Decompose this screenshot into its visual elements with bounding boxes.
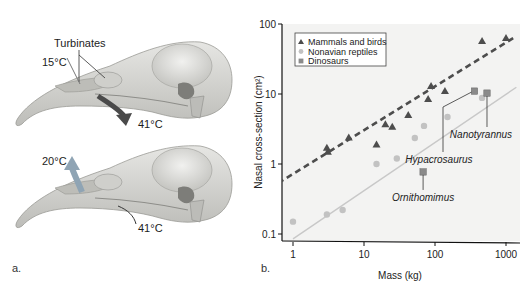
callout-nanotyrannus: Nanotyrannus [450,129,512,140]
orbit-icon [152,148,212,192]
legend-circle-icon [299,49,304,54]
label-exhale-temp: 20°C [42,155,67,167]
circle-marker-icon [324,211,330,217]
label-inhale-temp: 15°C [42,56,67,68]
y-axis-label: Nasal cross-section (cm²) [253,75,264,188]
legend-label: Mammals and birds [308,37,387,47]
y-tick-label: 0.1 [262,229,276,240]
skull-illustrations [0,0,235,299]
square-marker-icon [484,90,490,96]
turbinate-icon [94,72,122,88]
legend-square-icon [299,59,304,64]
y-tick-label: 100 [259,19,276,30]
square-marker-icon [420,169,426,175]
callout-hypacrosaurus: Hypacrosaurus [405,154,472,165]
callout-ornithomimus: Ornithomimus [392,192,454,203]
label-bottom-body-temp: 41°C [138,222,163,234]
y-tick-label: 1 [270,159,276,170]
panel-a-skulls: Turbinates 15°C 41°C 20°C 41°C a. [0,0,235,299]
orbit-icon [152,44,212,88]
legend-label: Dinosaurs [308,56,349,66]
x-tick-label: 1000 [495,249,518,260]
square-marker-icon [471,88,477,94]
chart-legend: Mammals and birdsNonavian reptilesDinosa… [295,33,387,66]
circle-marker-icon [412,135,418,141]
scatter-plot: 0.11101001101001000Mass (kg)Nasal cross-… [235,0,532,299]
panel-a-letter: a. [12,262,21,274]
circle-marker-icon [444,114,450,120]
x-tick-label: 100 [427,249,444,260]
circle-marker-icon [394,155,400,161]
circle-marker-icon [290,218,296,224]
x-tick-label: 10 [358,249,370,260]
label-top-body-temp: 41°C [138,118,163,130]
legend-label: Nonavian reptiles [308,47,378,57]
turbinate-icon [94,174,122,190]
top-skull [16,42,232,126]
circle-marker-icon [339,207,345,213]
x-tick-label: 1 [290,249,296,260]
circle-marker-icon [373,161,379,167]
panel-b-letter: b. [261,262,270,274]
circle-marker-icon [421,123,427,129]
x-axis-label: Mass (kg) [378,270,422,281]
label-turbinates: Turbinates [54,37,106,49]
panel-b-chart: 0.11101001101001000Mass (kg)Nasal cross-… [235,0,532,299]
x-axis [282,241,520,243]
y-tick-label: 10 [265,89,277,100]
